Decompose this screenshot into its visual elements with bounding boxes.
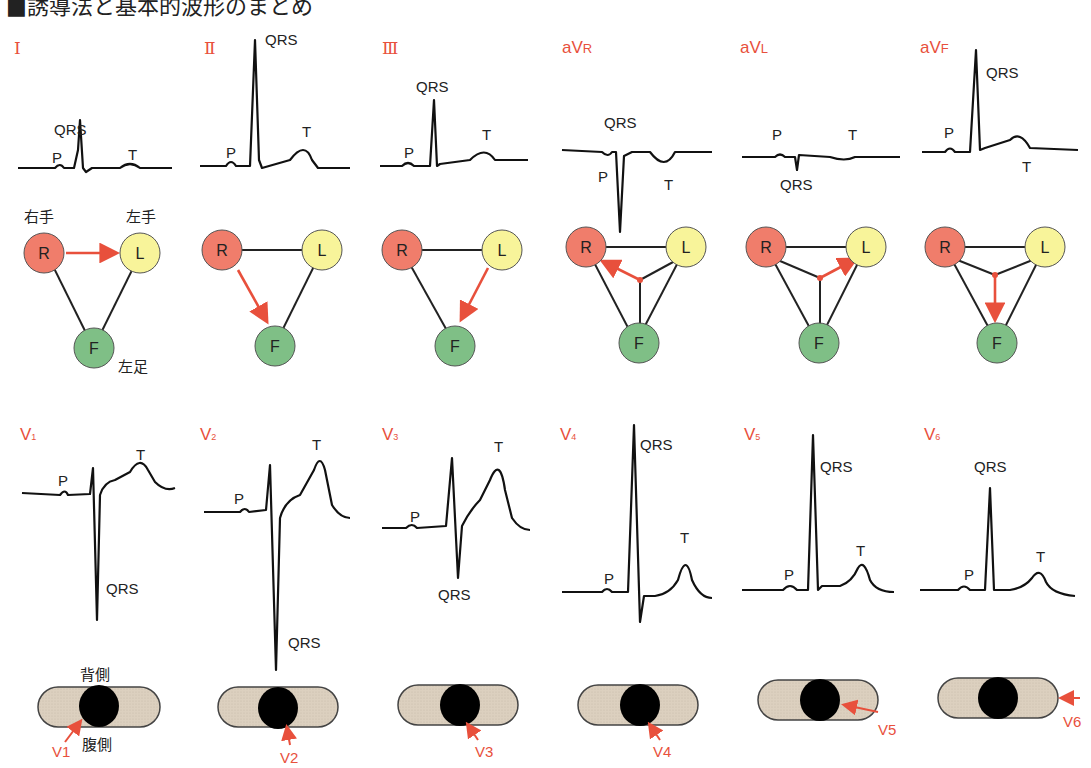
svg-text:T: T bbox=[312, 436, 321, 453]
svg-text:R: R bbox=[580, 239, 592, 256]
svg-text:QRS: QRS bbox=[106, 580, 139, 597]
svg-text:R: R bbox=[38, 245, 50, 262]
svg-text:V6: V6 bbox=[1063, 713, 1081, 730]
svg-text:QRS: QRS bbox=[974, 458, 1007, 475]
svg-text:L: L bbox=[498, 242, 507, 259]
svg-text:P: P bbox=[944, 124, 954, 141]
svg-text:T: T bbox=[680, 529, 689, 546]
waveform-I bbox=[18, 120, 172, 172]
svg-text:P: P bbox=[404, 144, 414, 161]
svg-text:QRS: QRS bbox=[265, 31, 298, 48]
svg-text:V1: V1 bbox=[52, 743, 70, 760]
svg-text:背側: 背側 bbox=[80, 666, 110, 683]
svg-text:T: T bbox=[302, 123, 311, 140]
svg-text:QRS: QRS bbox=[604, 114, 637, 131]
svg-text:QRS: QRS bbox=[986, 64, 1019, 81]
chest-leads-diagram: P T QRS P T QRS P T QRS P T QRS P T QRS … bbox=[0, 400, 1091, 768]
svg-text:R: R bbox=[760, 239, 772, 256]
svg-text:QRS: QRS bbox=[780, 176, 813, 193]
svg-text:QRS: QRS bbox=[820, 458, 853, 475]
svg-text:T: T bbox=[1036, 548, 1045, 565]
svg-text:T: T bbox=[856, 542, 865, 559]
svg-text:F: F bbox=[450, 338, 460, 355]
svg-text:P: P bbox=[52, 149, 62, 166]
svg-text:P: P bbox=[784, 566, 794, 583]
svg-text:F: F bbox=[992, 335, 1002, 352]
svg-text:右手: 右手 bbox=[24, 208, 54, 225]
svg-text:L: L bbox=[682, 239, 691, 256]
svg-text:P: P bbox=[772, 126, 782, 143]
svg-text:R: R bbox=[216, 242, 228, 259]
svg-text:L: L bbox=[318, 242, 327, 259]
waveform-V5 bbox=[742, 435, 894, 592]
svg-text:R: R bbox=[396, 242, 408, 259]
svg-text:QRS: QRS bbox=[54, 121, 87, 138]
waveform-V6 bbox=[920, 488, 1075, 596]
svg-text:T: T bbox=[494, 438, 503, 455]
svg-text:V5: V5 bbox=[878, 721, 896, 738]
svg-text:QRS: QRS bbox=[438, 586, 471, 603]
svg-text:F: F bbox=[270, 338, 280, 355]
svg-text:QRS: QRS bbox=[416, 78, 449, 95]
waveform-V1 bbox=[22, 463, 175, 620]
waveform-V2 bbox=[204, 461, 350, 670]
svg-text:L: L bbox=[1041, 239, 1050, 256]
svg-text:F: F bbox=[89, 340, 99, 357]
svg-text:T: T bbox=[848, 126, 857, 143]
svg-text:F: F bbox=[814, 335, 824, 352]
svg-text:P: P bbox=[964, 566, 974, 583]
svg-text:P: P bbox=[58, 472, 68, 489]
svg-text:V3: V3 bbox=[475, 743, 493, 760]
waveform-II bbox=[200, 40, 350, 168]
svg-text:P: P bbox=[410, 508, 420, 525]
waveform-V4 bbox=[562, 425, 712, 622]
svg-text:左手: 左手 bbox=[126, 208, 156, 225]
limb-leads-diagram: QRS P T QRS P T QRS P T QRS P T P T QRS … bbox=[0, 0, 1091, 400]
svg-text:R: R bbox=[939, 239, 951, 256]
svg-text:T: T bbox=[482, 126, 491, 143]
svg-text:腹側: 腹側 bbox=[82, 736, 112, 753]
svg-text:L: L bbox=[136, 245, 145, 262]
svg-text:T: T bbox=[128, 146, 137, 163]
waveform-aVR bbox=[562, 150, 712, 232]
svg-text:P: P bbox=[604, 570, 614, 587]
svg-text:P: P bbox=[598, 168, 608, 185]
svg-text:QRS: QRS bbox=[288, 634, 321, 651]
svg-text:T: T bbox=[136, 446, 145, 463]
svg-text:V2: V2 bbox=[280, 749, 298, 766]
svg-text:T: T bbox=[1022, 158, 1031, 175]
svg-text:T: T bbox=[664, 176, 673, 193]
svg-text:P: P bbox=[234, 490, 244, 507]
waveform-V3 bbox=[382, 458, 530, 578]
svg-text:V4: V4 bbox=[653, 743, 671, 760]
svg-text:L: L bbox=[862, 239, 871, 256]
svg-text:QRS: QRS bbox=[640, 436, 673, 453]
svg-text:P: P bbox=[226, 144, 236, 161]
waveform-III bbox=[380, 100, 528, 166]
waveform-aVL bbox=[742, 155, 900, 171]
svg-text:左足: 左足 bbox=[118, 358, 148, 375]
svg-text:F: F bbox=[634, 335, 644, 352]
